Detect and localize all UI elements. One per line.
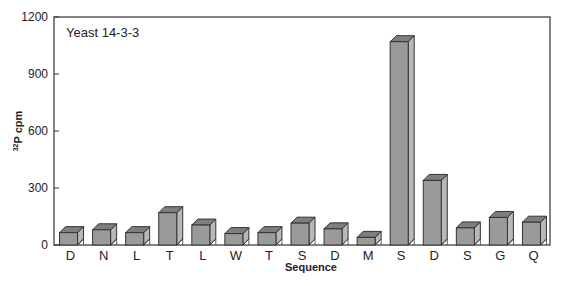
bar-front (159, 213, 177, 245)
y-tick-label: 600 (28, 124, 48, 138)
plot-area: 03006009001200DNLTLWTSDMSDSGQ (21, 10, 550, 263)
bar-front (489, 217, 507, 245)
x-tick-label: L (133, 248, 140, 263)
y-tick-label: 1200 (21, 10, 48, 24)
bar (390, 36, 414, 245)
bar-side (408, 36, 414, 245)
x-axis-label: Sequence (285, 261, 337, 273)
bar-front (192, 225, 210, 245)
bar-front (225, 234, 243, 245)
chart-title: Yeast 14-3-3 (66, 25, 139, 40)
bar (324, 223, 348, 245)
bar (60, 227, 84, 245)
x-tick-label: Q (528, 248, 538, 263)
x-tick-label: G (495, 248, 505, 263)
x-tick-label: T (265, 248, 273, 263)
y-axis-label: 32P cpm (12, 110, 24, 151)
bar (258, 227, 282, 245)
bar (126, 227, 150, 245)
bar-side (441, 174, 447, 245)
bar (357, 231, 381, 245)
bar (291, 217, 315, 245)
x-tick-label: T (166, 248, 174, 263)
bar (192, 219, 216, 245)
x-tick-label: L (199, 248, 206, 263)
x-tick-label: N (99, 248, 108, 263)
y-tick-label: 0 (41, 238, 48, 252)
x-tick-label: W (230, 248, 243, 263)
bar (225, 228, 249, 245)
bar-front (522, 222, 540, 245)
bar-front (126, 233, 144, 245)
bar (159, 207, 183, 245)
bar (522, 216, 546, 245)
bar-front (423, 180, 441, 245)
bar (489, 211, 513, 245)
bar-front (291, 223, 309, 245)
x-tick-label: S (397, 248, 406, 263)
y-axis-label-superscript: 32 (12, 143, 19, 151)
bar-chart: 03006009001200DNLTLWTSDMSDSGQ Yeast 14-3… (0, 0, 565, 286)
x-tick-label: D (66, 248, 75, 263)
y-tick-label: 900 (28, 67, 48, 81)
y-axis-label-main: P cpm (12, 110, 24, 143)
plot-frame (54, 17, 550, 245)
bar (456, 222, 480, 245)
bar-front (390, 42, 408, 245)
bar-front (60, 233, 78, 245)
bar (93, 224, 117, 245)
bar-front (456, 228, 474, 245)
x-tick-label: S (463, 248, 472, 263)
y-tick-label: 300 (28, 181, 48, 195)
svg-text:32P cpm: 32P cpm (12, 110, 24, 151)
bar-front (324, 229, 342, 245)
x-tick-label: M (363, 248, 374, 263)
bar-front (258, 233, 276, 245)
x-tick-label: D (430, 248, 439, 263)
bar (423, 174, 447, 245)
bar-front (93, 230, 111, 245)
bar-front (357, 237, 375, 245)
